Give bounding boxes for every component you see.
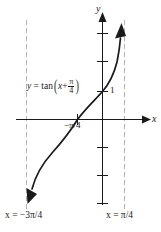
asymptote-label-right: x = π/4 [106,211,133,221]
tangent-function-figure: y x y = tan(x+π4) 1 −π/4 x = −3π/4 x = π… [0,0,161,232]
tangent-curve-lower-arrowhead [27,188,38,204]
equation-equals-sign: = [34,81,39,91]
plot-canvas [0,0,161,232]
asymptote-label-left: x = −3π/4 [5,211,42,221]
x-axis-arrowhead [142,116,151,124]
x-intercept-tick-label: −π/4 [64,121,81,130]
x-axis-label: x [152,114,156,124]
equation-y-symbol: y [27,81,31,91]
equation-fraction: π4 [68,78,74,96]
equation-annotation: y = tan(x+π4) [27,78,80,96]
equation-close-paren: ) [76,79,79,95]
y-intercept-tick-label: 1 [110,86,115,95]
equation-fraction-denominator: 4 [68,87,74,95]
equation-tan-symbol: tan [41,81,53,91]
equation-plus-sign: + [62,81,67,91]
y-axis-label: y [96,4,100,14]
equation-open-paren: ( [54,79,57,95]
tangent-curve-upper-branch [78,38,121,120]
